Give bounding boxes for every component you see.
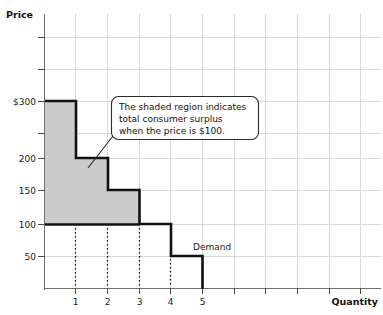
callout-line-2: total consumer surplus [119, 114, 223, 124]
x-tick-label-2: 2 [105, 297, 111, 307]
x-tick-label-1: 1 [73, 297, 79, 307]
x-tick-label-3: 3 [137, 297, 143, 307]
x-axis-title: Quantity [331, 296, 378, 307]
y-axis-title: Price [6, 9, 33, 20]
y-tick-label-300: $300 [13, 97, 36, 107]
y-tick-label-50: 50 [25, 252, 37, 262]
x-tick-label-5: 5 [200, 297, 206, 307]
x-tick-label-4: 4 [168, 297, 174, 307]
y-tick-label-200: 200 [19, 154, 36, 164]
callout-line-3: when the price is $100. [119, 126, 225, 136]
y-tick-label-100: 100 [19, 220, 36, 230]
chart-canvas: The shaded region indicates total consum… [0, 0, 383, 315]
callout-line-1: The shaded region indicates [118, 102, 247, 112]
demand-label: Demand [193, 242, 231, 252]
consumer-surplus-chart: The shaded region indicates total consum… [0, 0, 383, 315]
y-tick-label-150: 150 [19, 186, 36, 196]
